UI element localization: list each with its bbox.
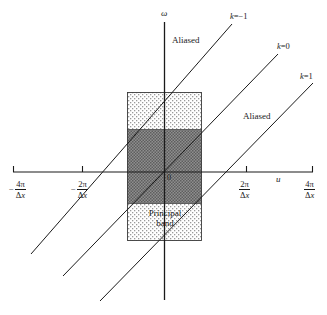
tick-denominator: Δx: [304, 190, 316, 199]
u-tick-label-pos-2pi: 2π Δx: [238, 180, 251, 200]
principal-band-label: Principal band: [136, 208, 194, 229]
tick-numerator: 2π: [239, 180, 251, 190]
principal-band-label-line1: Principal: [136, 208, 194, 218]
principal-band-label-line2: band: [136, 218, 194, 228]
aliased-label-lower: Aliased: [243, 112, 271, 121]
line-label-k-zero: k=0: [277, 42, 290, 51]
x-symbol: x: [83, 190, 87, 200]
aliasing-diagram-figure: ω u 0 k=−1 k=0 k=1 Aliased Aliased Princ…: [0, 0, 327, 315]
tick-fraction: 2π Δx: [76, 180, 88, 200]
tick-sign: −: [9, 185, 14, 195]
tick-numerator: 4π: [304, 180, 316, 190]
omega-axis-label: ω: [161, 9, 167, 18]
u-tick-label-neg-2pi: − 2π Δx: [71, 180, 89, 200]
u-tick-label-pos-4pi: 4π Δx: [303, 180, 316, 200]
tick-fraction: 4π Δx: [304, 180, 316, 200]
k-value-text: =0: [281, 41, 290, 51]
tick-denominator: Δx: [76, 190, 88, 199]
x-symbol: x: [310, 190, 314, 200]
line-k-zero: [63, 54, 278, 276]
tick-sign: −: [71, 185, 76, 195]
x-symbol: x: [245, 190, 249, 200]
tick-denominator: Δx: [14, 190, 26, 199]
k-value-text: =1: [304, 71, 313, 81]
tick-numerator: 2π: [77, 180, 89, 190]
tick-fraction: 2π Δx: [239, 180, 251, 200]
x-symbol: x: [21, 190, 25, 200]
tick-denominator: Δx: [239, 190, 251, 199]
line-label-k-minus-1: k=−1: [230, 12, 248, 21]
k-value-text: =−1: [234, 11, 248, 21]
u-tick-label-neg-4pi: − 4π Δx: [9, 180, 27, 200]
tick-fraction: 4π Δx: [14, 180, 26, 200]
u-axis-label: u: [276, 175, 281, 184]
origin-label: 0: [167, 174, 171, 182]
aliased-label-upper: Aliased: [172, 36, 200, 45]
tick-numerator: 4π: [15, 180, 27, 190]
line-label-k-plus-1: k=1: [300, 72, 313, 81]
